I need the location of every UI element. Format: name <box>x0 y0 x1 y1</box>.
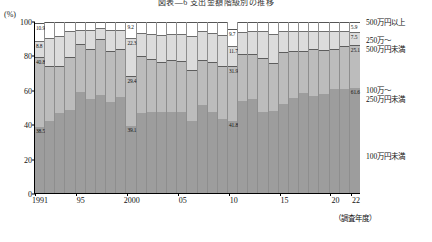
value-label-2000-s0: 39.1 <box>127 127 136 133</box>
bar-segment-1996-s2 <box>86 30 95 49</box>
bar-2013 <box>258 22 268 193</box>
legend-label2-s1: 250万円未満 <box>366 95 405 104</box>
bar-segment-2015-s1 <box>279 52 288 104</box>
bar-segment-2002-s1 <box>147 59 156 112</box>
y-tick-80: 80 <box>24 52 32 61</box>
bars-container: 10.98.840.838.59.222.329.439.19.711.731.… <box>35 22 360 193</box>
legend-label2-s2: 500万円未満 <box>366 45 405 54</box>
legend-label-s3: 500万円以上 <box>366 18 405 27</box>
bar-1992 <box>45 22 55 193</box>
x-tick-mark-2005 <box>178 193 179 196</box>
y-tick-mark-60 <box>32 90 35 91</box>
bar-segment-2006-s1 <box>187 70 196 121</box>
bar-1996 <box>86 22 96 193</box>
bar-segment-1998-s2 <box>106 30 115 51</box>
bar-segment-2006-s2 <box>187 36 196 70</box>
bar-segment-2012-s2 <box>248 31 257 54</box>
bar-segment-2019-s2 <box>319 31 328 50</box>
bar-segment-1998-s3 <box>106 22 115 30</box>
legend-item-s2: 250万～500万円未満 <box>366 36 405 54</box>
legend-item-s0: 100万円未満 <box>366 152 405 161</box>
bar-segment-2005-s0 <box>177 112 186 193</box>
bar-segment-1992-s3 <box>45 22 54 38</box>
bar-segment-2003-s0 <box>157 112 166 193</box>
bar-segment-2021-s1 <box>340 46 349 89</box>
bar-segment-1991-s3: 10.9 <box>35 23 44 42</box>
bar-1995 <box>76 22 86 193</box>
bar-segment-1993-s0 <box>55 113 64 193</box>
bar-segment-1991-s2: 8.8 <box>35 41 44 56</box>
bar-segment-2009-s2 <box>218 35 227 67</box>
bar-segment-2016-s2 <box>289 31 298 52</box>
bar-segment-1999-s1 <box>116 49 125 97</box>
x-tick-1995: 95 <box>77 196 85 205</box>
bar-1997 <box>96 22 106 193</box>
bar-2009 <box>218 22 228 193</box>
bar-segment-1992-s2 <box>45 38 54 66</box>
legend-label-s2: 250万～ <box>366 36 405 45</box>
x-tick-mark-2022 <box>351 193 352 196</box>
bar-2020 <box>330 22 340 193</box>
bar-segment-2013-s1 <box>258 58 267 112</box>
bar-segment-2001-s3 <box>137 22 146 33</box>
bar-segment-2002-s2 <box>147 34 156 59</box>
x-tick-2005: 05 <box>179 196 187 205</box>
plot-area: 10.98.840.838.59.222.329.439.19.711.731.… <box>34 22 360 194</box>
legend-label-s1: 100万～ <box>366 86 405 95</box>
bar-segment-2018-s3 <box>309 22 318 31</box>
bar-1994 <box>65 22 75 193</box>
value-label-2000-s3: 9.2 <box>127 24 133 30</box>
bar-segment-2003-s3 <box>157 22 166 35</box>
x-tick-mark-1991 <box>35 193 36 196</box>
bar-segment-2022-s3: 5.9 <box>350 22 360 32</box>
value-label-1991-s3: 10.9 <box>36 25 45 31</box>
y-tick-40: 40 <box>24 121 32 130</box>
bar-segment-2012-s1 <box>248 54 257 98</box>
bar-segment-2014-s2 <box>269 34 278 63</box>
value-label-2022-s3: 5.9 <box>351 24 357 30</box>
value-label-2022-s1: 25.1 <box>351 47 360 53</box>
bar-2001 <box>137 22 147 193</box>
bar-segment-1996-s1 <box>86 49 95 99</box>
bar-2005 <box>177 22 187 193</box>
bar-segment-1996-s0 <box>86 99 95 193</box>
bar-2007 <box>198 22 208 193</box>
bar-segment-2007-s1 <box>198 60 207 105</box>
bar-segment-2000-s0: 39.1 <box>126 126 135 193</box>
bar-segment-2014-s0 <box>269 111 278 193</box>
legend-label-s0: 100万円未満 <box>366 152 405 161</box>
bar-1993 <box>55 22 65 193</box>
x-tick-2020: 20 <box>332 196 340 205</box>
bar-segment-2010-s0: 41.8 <box>228 121 237 193</box>
value-label-1991-s0: 38.5 <box>36 128 45 134</box>
bar-segment-2010-s1: 31.9 <box>228 66 237 121</box>
bar-segment-2004-s1 <box>167 60 176 112</box>
bar-segment-2007-s3 <box>198 22 207 31</box>
y-tick-mark-80 <box>32 56 35 57</box>
bar-segment-2018-s1 <box>309 49 318 95</box>
x-tick-mark-1995 <box>76 193 77 196</box>
value-label-2010-s1: 31.9 <box>229 68 238 74</box>
bar-2004 <box>167 22 177 193</box>
bar-segment-2015-s2 <box>279 31 288 52</box>
bar-segment-2010-s3: 9.7 <box>228 29 237 46</box>
bar-2016 <box>289 22 299 193</box>
y-tick-60: 60 <box>24 86 32 95</box>
bar-segment-1995-s3 <box>76 22 85 30</box>
bar-segment-2013-s3 <box>258 22 267 31</box>
bar-segment-1993-s3 <box>55 22 64 36</box>
bar-segment-2021-s2 <box>340 31 349 46</box>
bar-segment-2022-s0: 61.6 <box>350 88 360 193</box>
value-label-1991-s1: 40.8 <box>36 59 45 65</box>
bar-segment-1995-s0 <box>76 92 85 193</box>
bar-2021 <box>340 22 350 193</box>
bar-2011 <box>238 22 248 193</box>
value-label-2000-s2: 22.3 <box>127 40 136 46</box>
bar-segment-2021-s3 <box>340 22 349 31</box>
bar-segment-2017-s0 <box>299 93 308 193</box>
value-label-2010-s3: 9.7 <box>229 31 235 37</box>
bar-2010: 9.711.731.941.8 <box>228 22 238 193</box>
legend-item-s3: 500万円以上 <box>366 18 405 27</box>
bar-2018 <box>309 22 319 193</box>
chart-title: 図表―6 支出金額階級別の推移 <box>0 0 432 8</box>
